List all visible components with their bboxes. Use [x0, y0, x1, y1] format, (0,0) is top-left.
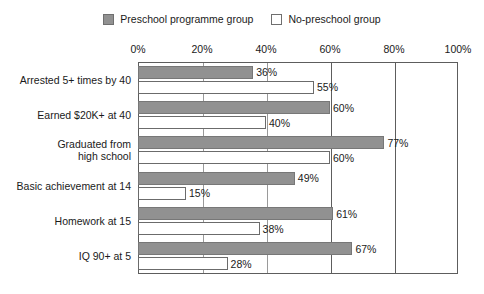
bar-preschool: 60%	[138, 101, 330, 114]
bar-preschool: 49%	[138, 172, 295, 185]
legend-item-preschool: Preschool programme group	[103, 14, 253, 25]
x-tick-label: 20%	[191, 43, 212, 55]
category-label: Basic achievement at 14	[0, 180, 131, 192]
bar-no-preschool: 60%	[138, 151, 330, 164]
bar-no-preschool: 38%	[138, 222, 260, 235]
legend-item-label: No-preschool group	[288, 14, 380, 25]
bar-value-label: 77%	[387, 137, 408, 149]
x-tick-label: 80%	[383, 43, 404, 55]
category-label: Graduated from high school	[0, 138, 131, 162]
bar-value-label: 15%	[189, 187, 210, 199]
category-label: Earned $20K+ at 40	[0, 109, 131, 121]
bar-value-label: 67%	[355, 243, 376, 255]
filled-square-icon	[103, 14, 114, 25]
bar-no-preschool: 40%	[138, 116, 266, 129]
bar-value-label: 55%	[317, 81, 338, 93]
category-label: Arrested 5+ times by 40	[0, 74, 131, 86]
bar-value-label: 60%	[333, 152, 354, 164]
bar-value-label: 40%	[269, 117, 290, 129]
x-tick-label: 40%	[255, 43, 276, 55]
chart-legend: Preschool programme group No-preschool g…	[0, 14, 484, 25]
bar-preschool: 36%	[138, 66, 253, 79]
bar-value-label: 49%	[298, 172, 319, 184]
bar-chart: 36%55%60%40%77%60%49%15%61%38%67%28%	[138, 62, 458, 274]
category-label: IQ 90+ at 5	[0, 250, 131, 262]
x-tick-label: 0%	[130, 43, 145, 55]
bar-no-preschool: 15%	[138, 187, 186, 200]
bar-no-preschool: 28%	[138, 257, 228, 270]
bar-value-label: 61%	[336, 208, 357, 220]
legend-item-no-preschool: No-preschool group	[271, 14, 380, 25]
bar-value-label: 36%	[256, 66, 277, 78]
bar-preschool: 77%	[138, 136, 384, 149]
bar-value-label: 60%	[333, 102, 354, 114]
category-label: Homework at 15	[0, 215, 131, 227]
bar-value-label: 38%	[263, 223, 284, 235]
gridline	[395, 63, 396, 273]
bar-no-preschool: 55%	[138, 81, 314, 94]
bar-value-label: 28%	[231, 258, 252, 270]
x-axis-tick-labels: 0%20%40%60%80%100%	[138, 43, 458, 59]
legend-item-label: Preschool programme group	[120, 14, 253, 25]
bar-preschool: 61%	[138, 207, 333, 220]
x-tick-label: 100%	[445, 43, 472, 55]
empty-square-icon	[271, 14, 282, 25]
category-axis-labels: Arrested 5+ times by 40Earned $20K+ at 4…	[0, 62, 131, 274]
bar-preschool: 67%	[138, 242, 352, 255]
x-tick-label: 60%	[319, 43, 340, 55]
